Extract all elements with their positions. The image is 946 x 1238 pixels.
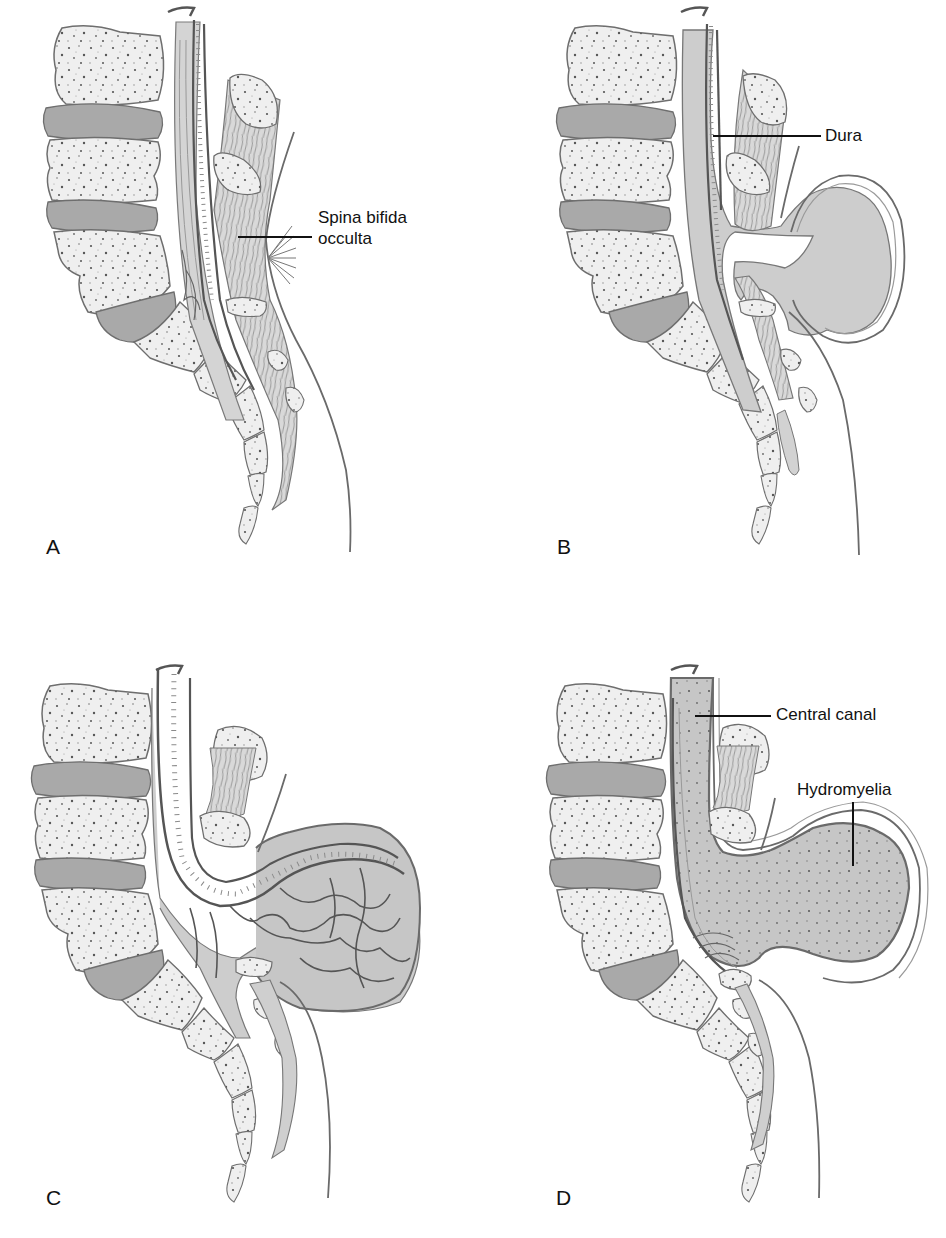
label-hydromyelia: Hydromyelia <box>797 779 891 800</box>
panel-letter-c: C <box>46 1186 61 1210</box>
panel-letter-a: A <box>46 535 60 559</box>
panel-letter-b: B <box>557 535 571 559</box>
label-spina-bifida-occulta: Spina bifida occulta <box>318 207 407 249</box>
label-dura: Dura <box>825 125 862 146</box>
spine-illustration-c <box>0 638 473 1238</box>
spine-illustration-d <box>473 638 946 1238</box>
panel-a-spina-bifida-occulta: Spina bifida occulta A <box>0 0 473 600</box>
panel-letter-d: D <box>556 1186 571 1210</box>
label-line-1: Spina bifida <box>318 207 407 228</box>
leader-line-dura <box>713 135 821 137</box>
leader-line-hydromyelia <box>852 802 854 866</box>
spine-illustration-a <box>0 0 473 600</box>
panel-b-meningocele: Dura B <box>473 0 946 600</box>
label-line-2: occulta <box>318 228 407 249</box>
leader-line-spina-bifida <box>238 236 312 238</box>
panel-d-hydromyelia: Central canal Hydromyelia D <box>473 638 946 1238</box>
panel-c-myelomeningocele: C <box>0 638 473 1238</box>
label-central-canal: Central canal <box>776 704 876 725</box>
leader-line-central-canal <box>695 715 771 717</box>
spine-illustration-b <box>473 0 946 600</box>
